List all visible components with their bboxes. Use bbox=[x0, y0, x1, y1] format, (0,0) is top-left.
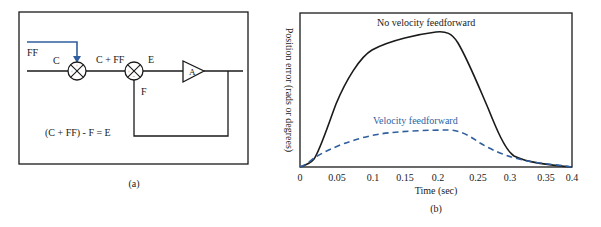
x-tick: 0.1 bbox=[367, 172, 380, 183]
caption-a: (a) bbox=[128, 178, 139, 190]
label-no-velocity-feedforward: No velocity feedforward bbox=[377, 17, 475, 28]
summing-junction-1: + + bbox=[68, 62, 86, 80]
minus-sign: − bbox=[133, 74, 136, 79]
x-tick: 0.4 bbox=[566, 172, 579, 183]
x-tick: 0.3 bbox=[504, 172, 517, 183]
position-error-chart: No velocity feedforward Velocity feedfor… bbox=[283, 13, 578, 197]
x-axis-ticks: 0 0.05 0.1 0.15 0.2 0.25 0.3 0.35 0.4 bbox=[298, 172, 579, 183]
equation-label: (C + FF) - F = E bbox=[45, 127, 111, 139]
plus-sign: + bbox=[76, 63, 79, 68]
caption-b: (b) bbox=[430, 203, 442, 215]
series-velocity-feedforward bbox=[300, 130, 572, 167]
y-axis-label: Position error (rads or degrees) bbox=[283, 28, 295, 152]
amplifier-block: A bbox=[183, 61, 204, 82]
label-e: E bbox=[148, 54, 154, 65]
x-tick: 0.15 bbox=[396, 172, 414, 183]
label-c-plus-ff: C + FF bbox=[96, 54, 125, 65]
figure-canvas: + + + − A FF C C + FF E F (C + FF) - F =… bbox=[0, 0, 601, 227]
x-tick: 0.35 bbox=[537, 172, 555, 183]
x-tick: 0.25 bbox=[469, 172, 487, 183]
x-tick: 0.2 bbox=[432, 172, 445, 183]
summing-junction-2: + − bbox=[125, 62, 143, 80]
label-ff: FF bbox=[27, 47, 39, 58]
label-f: F bbox=[141, 86, 147, 97]
label-velocity-feedforward: Velocity feedforward bbox=[373, 115, 458, 126]
plot-frame bbox=[300, 13, 572, 167]
block-diagram: + + + − A FF C C + FF E F (C + FF) - F =… bbox=[19, 12, 248, 164]
label-c: C bbox=[53, 55, 60, 66]
amplifier-label: A bbox=[189, 67, 196, 77]
series-no-velocity-feedforward bbox=[300, 32, 572, 167]
feedback-loop bbox=[134, 71, 228, 136]
plus-sign: + bbox=[71, 69, 74, 74]
plus-sign: + bbox=[128, 69, 131, 74]
x-tick: 0.05 bbox=[328, 172, 346, 183]
x-tick: 0 bbox=[298, 172, 303, 183]
x-axis-label: Time (sec) bbox=[415, 185, 458, 197]
